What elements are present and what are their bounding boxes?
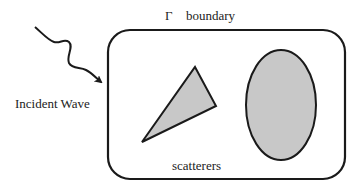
boundary-symbol: Γ (165, 8, 173, 23)
incident-wave-label: Incident Wave (15, 96, 90, 111)
incident-wave-arrow (35, 27, 101, 82)
ellipse-scatterer (246, 50, 316, 160)
scattering-diagram: Γ boundary Incident Wave scatterers (0, 0, 363, 191)
triangle-scatterer (142, 67, 216, 142)
scatterers-label: scatterers (172, 158, 221, 173)
boundary-label: boundary (186, 8, 236, 23)
